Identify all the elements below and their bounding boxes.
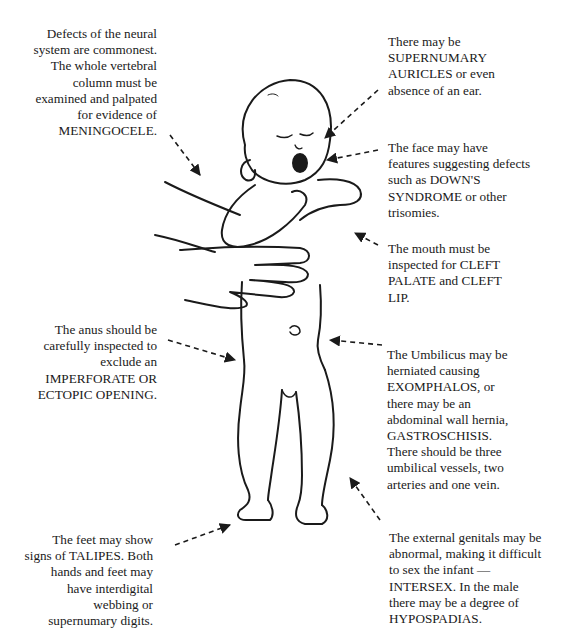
infant-leg-left-inner <box>268 390 282 500</box>
arrow-umbilicus <box>330 340 382 345</box>
arrow-neural <box>170 135 200 175</box>
annotation-arrows <box>168 90 382 545</box>
arrow-anus <box>168 340 235 360</box>
infant-eye-right <box>300 133 313 135</box>
arrow-ears <box>325 90 378 138</box>
infant-leg-left-outer <box>238 410 273 520</box>
infant-torso-right <box>317 285 325 370</box>
arrow-genitals <box>350 478 380 520</box>
infant-genitals <box>282 390 296 397</box>
infant-umbilicus <box>290 326 300 335</box>
infant-figure <box>155 80 361 524</box>
label-mouth-cleft: The mouth must be inspected for CLEFT PA… <box>388 241 502 306</box>
infant-head <box>243 80 331 184</box>
label-neural-defects: Defects of the neural system are commone… <box>34 26 157 139</box>
infant-eye-left <box>277 135 292 137</box>
label-anus: The anus should be carefully inspected t… <box>38 322 157 403</box>
label-ears-auricles: There may be SUPERNUMARY AURICLES or eve… <box>388 34 495 99</box>
label-face-downs: The face may have features suggesting de… <box>388 140 530 221</box>
infant-arm-right <box>300 179 361 220</box>
label-umbilicus: The Umbilicus may be herniated causing E… <box>387 347 508 493</box>
arrow-face <box>327 150 378 160</box>
label-genitals-intersex: The external genitals may be abnormal, m… <box>389 530 541 627</box>
label-feet-talipes: The feet may show signs of TALIPES. Both… <box>25 532 153 629</box>
examiner-hand <box>180 247 309 309</box>
infant-torso-left <box>240 282 245 410</box>
infant-arm-left <box>222 185 307 247</box>
infant-leg-right-outer <box>322 370 334 505</box>
arrow-mouth <box>355 233 378 245</box>
arrow-feet <box>175 525 230 545</box>
infant-mouth <box>293 154 307 172</box>
